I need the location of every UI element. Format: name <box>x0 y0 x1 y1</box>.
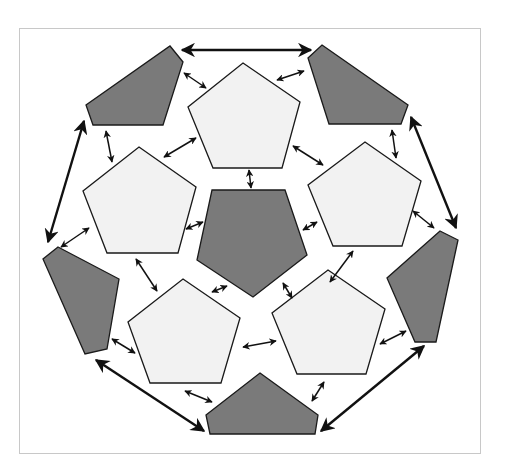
double-arrow-icon-inner <box>293 146 323 165</box>
dark-panel-right <box>387 231 458 342</box>
double-arrow-icon-outer-left <box>48 121 84 242</box>
double-arrow-icon-inner <box>243 341 276 347</box>
double-arrow-icon-inner <box>312 382 324 401</box>
double-arrow-icon-inner <box>61 228 89 247</box>
light-pentagon-left <box>83 147 196 253</box>
double-arrow-icon-inner <box>185 391 212 402</box>
dark-panel-left <box>43 247 119 354</box>
truncated-icosahedron-net-diagram <box>0 0 506 475</box>
double-arrow-icon-inner <box>164 138 196 157</box>
dark-panel-top-right <box>308 45 408 124</box>
double-arrow-icon-inner <box>106 131 112 162</box>
dark-panel-top-left <box>86 46 183 125</box>
light-pentagon-top <box>188 63 300 168</box>
double-arrow-icon-inner <box>380 331 406 344</box>
double-arrow-icon-inner <box>249 170 251 188</box>
double-arrow-icon-inner <box>212 286 227 292</box>
light-pentagon-bottom-left <box>128 279 240 383</box>
light-pentagon-bottom-right <box>272 270 385 374</box>
double-arrow-icon-inner <box>186 222 203 229</box>
double-arrow-icon-inner <box>112 339 135 353</box>
double-arrow-icon-inner <box>184 73 206 88</box>
double-arrow-icon-inner <box>413 211 434 228</box>
light-pentagon-right <box>308 142 421 246</box>
dark-panel-center <box>197 190 307 297</box>
double-arrow-icon-inner <box>330 251 353 282</box>
dark-panel-bottom <box>206 373 318 434</box>
double-arrow-icon-inner <box>392 130 396 158</box>
double-arrow-icon-outer-right <box>411 117 456 228</box>
double-arrow-icon-inner <box>303 222 317 230</box>
double-arrow-icon-inner <box>277 71 304 80</box>
double-arrow-icon-inner <box>136 259 157 291</box>
double-arrow-icon-inner <box>283 283 292 298</box>
